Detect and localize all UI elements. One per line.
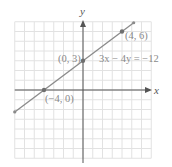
series-line: [15, 23, 134, 112]
line-end-marker: [13, 110, 16, 113]
y-axis-label: y: [79, 5, 85, 17]
line-end-marker: [132, 21, 135, 24]
data-point: [81, 59, 85, 63]
point-label-0-3: (0, 3): [58, 53, 81, 65]
coordinate-plane: x y (4, 6) (0, 3) 3x − 4y = −12 (−4, 0): [0, 0, 172, 167]
y-axis-arrow-icon: [80, 20, 86, 27]
data-point: [42, 88, 46, 92]
point-label-neg4-0: (−4, 0): [45, 93, 74, 105]
equation-label: 3x − 4y = −12: [99, 53, 159, 64]
x-axis-label: x: [153, 84, 159, 96]
point-label-4-6: (4, 6): [125, 30, 148, 42]
data-point: [120, 29, 124, 33]
